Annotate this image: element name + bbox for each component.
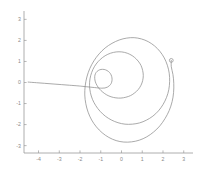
x-tick-label: -4 — [36, 156, 41, 162]
x-tick-label: 1 — [141, 156, 144, 162]
y-tick-label: -3 — [16, 143, 21, 149]
x-axis-tick-labels: -4-3-2-10123 — [36, 156, 185, 162]
x-tick-label: -1 — [98, 156, 103, 162]
chart-figure: -4-3-2-10123 3210-1-2-3 — [0, 0, 204, 170]
y-tick-label: -2 — [16, 121, 21, 127]
x-tick-label: 2 — [162, 156, 165, 162]
x-tick-label: 0 — [120, 156, 123, 162]
spiral-plot: -4-3-2-10123 3210-1-2-3 — [0, 0, 204, 170]
y-tick-label: 1 — [18, 58, 21, 64]
x-tick-label: -2 — [78, 156, 83, 162]
y-axis-tick-labels: 3210-1-2-3 — [16, 16, 21, 148]
spiral-curve — [28, 38, 174, 143]
x-tick-label: -3 — [57, 156, 62, 162]
y-tick-label: 2 — [18, 37, 21, 43]
y-tick-label: 3 — [18, 16, 21, 22]
x-tick-label: 3 — [182, 156, 185, 162]
y-tick-label: -1 — [16, 100, 21, 106]
y-tick-label: 0 — [18, 79, 21, 85]
